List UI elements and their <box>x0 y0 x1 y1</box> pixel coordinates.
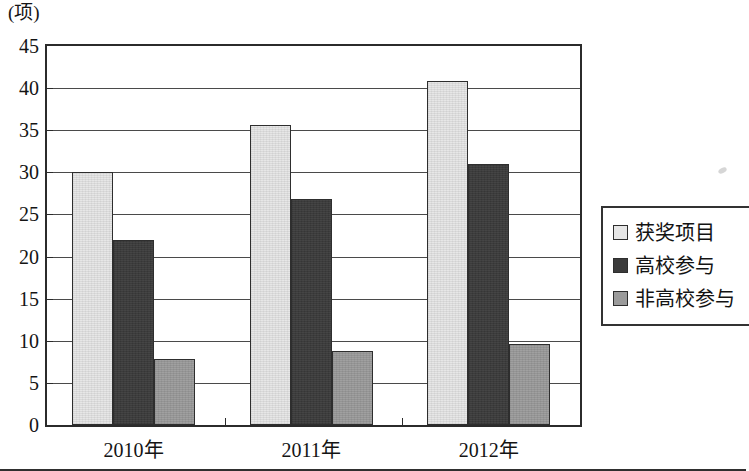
x-axis-tick-mark <box>225 418 226 425</box>
legend-swatch-icon <box>613 258 628 273</box>
legend-item: 获奖项目 <box>613 216 743 249</box>
bar <box>509 344 550 425</box>
y-axis-tick-mark <box>47 299 53 300</box>
legend-item: 高校参与 <box>613 249 743 282</box>
x-axis-category-label: 2012年 <box>397 438 580 462</box>
bar <box>154 359 195 425</box>
gridline <box>47 130 580 131</box>
y-axis-tick-label: 10 <box>0 331 39 351</box>
y-axis-tick-label: 30 <box>0 162 39 182</box>
y-axis-tick-mark <box>47 88 53 89</box>
x-axis-category-label: 2011年 <box>220 438 403 462</box>
y-axis-tick-mark <box>47 341 53 342</box>
legend-item-label: 非高校参与 <box>635 288 735 310</box>
bar <box>113 240 154 425</box>
x-axis-category-label: 2010年 <box>42 438 225 462</box>
bar <box>332 351 373 425</box>
y-axis-tick-label: 15 <box>0 289 39 309</box>
y-axis-tick-label: 40 <box>0 78 39 98</box>
y-axis-tick-label: 45 <box>0 36 39 56</box>
chart-legend: 获奖项目高校参与非高校参与 <box>601 206 749 326</box>
bar <box>250 125 291 425</box>
y-axis-tick-label: 5 <box>0 373 39 393</box>
y-axis-tick-mark <box>47 130 53 131</box>
y-axis-tick-label: 0 <box>0 415 39 435</box>
legend-swatch-icon <box>613 291 628 306</box>
legend-item-label: 获奖项目 <box>635 222 715 244</box>
legend-item-label: 高校参与 <box>635 255 715 277</box>
y-axis-tick-mark <box>47 383 53 384</box>
bar <box>72 172 113 425</box>
bar <box>427 81 468 425</box>
y-axis-tick-mark <box>47 214 53 215</box>
plot-area <box>45 44 582 427</box>
gridline <box>47 88 580 89</box>
x-axis-tick-mark <box>402 418 403 425</box>
bar <box>291 199 332 425</box>
y-axis-tick-label: 25 <box>0 204 39 224</box>
bar <box>468 164 509 425</box>
legend-swatch-icon <box>613 225 628 240</box>
y-axis-tick-label: 35 <box>0 120 39 140</box>
legend-item: 非高校参与 <box>613 282 743 315</box>
y-axis-tick-mark <box>47 172 53 173</box>
y-axis-tick-label: 20 <box>0 247 39 267</box>
scan-speck <box>717 166 727 175</box>
y-axis-unit-caption: (项) <box>8 2 40 24</box>
y-axis-tick-mark <box>47 257 53 258</box>
